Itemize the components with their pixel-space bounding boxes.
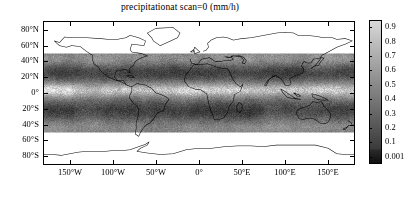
y-tick <box>44 77 48 78</box>
x-axis-tick-label: 100°E <box>262 168 308 177</box>
y-axis-tick-label: 80°S <box>0 151 39 160</box>
y-axis-tick-label: 20°S <box>0 104 39 113</box>
x-axis-tick-label: 0° <box>176 168 222 177</box>
y-tick <box>350 46 354 47</box>
colorbar-tick <box>369 85 372 86</box>
colorbar-tick-label: 0.8 <box>385 37 396 46</box>
chart-title: precipitationat scan=0 (mm/h) <box>0 2 360 12</box>
y-axis-tick-label: 40°N <box>0 56 39 65</box>
colorbar-tick-label: 0.5 <box>385 80 396 89</box>
x-axis-tick-label: 50°E <box>219 168 265 177</box>
y-tick <box>350 156 354 157</box>
y-tick <box>44 46 48 47</box>
colorbar-tick <box>369 42 372 43</box>
x-tick <box>199 160 200 164</box>
y-tick <box>44 93 48 94</box>
colorbar-tick-label: 0.001 <box>385 152 404 161</box>
colorbar-tick <box>369 27 372 28</box>
y-tick <box>350 109 354 110</box>
colorbar-tick-label: 0.6 <box>385 65 396 74</box>
y-tick <box>44 61 48 62</box>
colorbar-tick-label: 0.1 <box>385 137 396 146</box>
x-tick <box>70 22 71 26</box>
map-plot-area[interactable] <box>43 21 355 165</box>
x-tick <box>70 160 71 164</box>
y-axis-tick-label: 40°S <box>0 120 39 129</box>
x-axis-tick-label: 150°W <box>47 168 93 177</box>
x-tick <box>328 22 329 26</box>
x-tick <box>113 160 114 164</box>
colorbar-tick <box>369 114 372 115</box>
y-tick <box>44 156 48 157</box>
x-tick <box>242 160 243 164</box>
y-tick <box>44 109 48 110</box>
colorbar-tick-label: 0.4 <box>385 94 396 103</box>
x-tick <box>156 160 157 164</box>
x-tick <box>242 22 243 26</box>
y-tick <box>350 77 354 78</box>
colorbar-tick <box>369 142 372 143</box>
colorbar-tick-label: 0.7 <box>385 51 396 60</box>
figure: precipitationat scan=0 (mm/h) 80°N60°N40… <box>0 0 417 197</box>
y-tick <box>350 140 354 141</box>
colorbar-tick-label: 0.9 <box>385 22 396 31</box>
colorbar-tick <box>369 70 372 71</box>
y-tick <box>44 30 48 31</box>
x-tick <box>156 22 157 26</box>
x-tick <box>113 22 114 26</box>
y-axis-tick-label: 20°N <box>0 72 39 81</box>
x-tick <box>285 160 286 164</box>
x-tick <box>199 22 200 26</box>
precipitation-heatmap <box>44 22 354 164</box>
y-axis-tick-label: 80°N <box>0 25 39 34</box>
colorbar-tick <box>369 56 372 57</box>
colorbar-tick <box>369 128 372 129</box>
y-tick <box>44 140 48 141</box>
y-tick <box>44 125 48 126</box>
y-axis-tick-label: 0° <box>0 88 39 97</box>
y-tick <box>350 125 354 126</box>
y-tick <box>350 30 354 31</box>
y-axis-tick-label: 60°S <box>0 135 39 144</box>
x-tick <box>328 160 329 164</box>
colorbar-tick-label: 0.2 <box>385 123 396 132</box>
x-tick <box>285 22 286 26</box>
y-tick <box>350 61 354 62</box>
x-axis-tick-label: 100°W <box>90 168 136 177</box>
x-axis-tick-label: 150°E <box>305 168 351 177</box>
colorbar-tick-label: 0.3 <box>385 109 396 118</box>
x-axis-tick-label: 50°W <box>133 168 179 177</box>
colorbar-tick <box>369 157 372 158</box>
colorbar-tick <box>369 99 372 100</box>
y-tick <box>350 93 354 94</box>
y-axis-tick-label: 60°N <box>0 41 39 50</box>
